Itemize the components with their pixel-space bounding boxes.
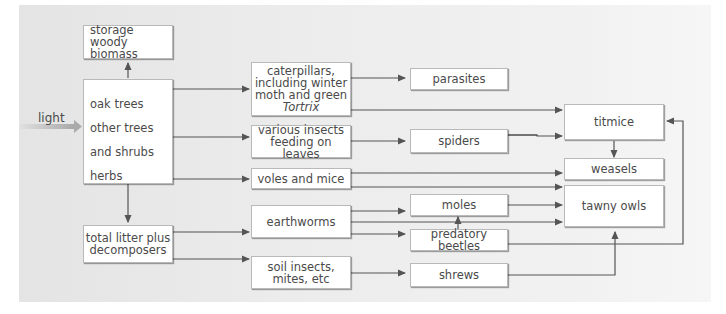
- node-tawny-owls: tawny owls: [564, 185, 664, 227]
- node-caterpillars-line4: Tortrix: [255, 101, 347, 113]
- node-soil-insects-line2: mites, etc: [267, 273, 334, 285]
- node-moles-label: moles: [442, 199, 477, 211]
- node-other-trees: other treesand shrubs: [90, 122, 154, 158]
- node-other-trees-line2: and shrubs: [90, 146, 154, 158]
- node-predatory-beetles: predatory beetles: [410, 229, 508, 251]
- node-moles: moles: [410, 194, 508, 216]
- node-spiders-label: spiders: [438, 135, 480, 147]
- node-storage: storagewoody biomass: [83, 25, 173, 59]
- node-parasites: parasites: [410, 68, 508, 90]
- node-earthworms-label: earthworms: [267, 216, 336, 228]
- node-producers: oak trees other treesand shrubs herbs: [83, 79, 173, 184]
- node-shrews-label: shrews: [439, 269, 479, 281]
- node-beetles-label: predatory beetles: [411, 228, 507, 252]
- node-weasels: weasels: [564, 158, 664, 180]
- node-caterpillars: caterpillars,including wintermoth and gr…: [251, 62, 351, 116]
- node-litter: total litter plusdecomposers: [83, 225, 173, 263]
- node-earthworms: earthworms: [251, 205, 351, 238]
- node-shrews: shrews: [410, 263, 508, 287]
- node-soil-insects: soil insects,mites, etc: [251, 256, 351, 289]
- node-herbs: herbs: [90, 170, 122, 182]
- node-parasites-label: parasites: [433, 73, 486, 85]
- node-insects-line2: feeding on leaves: [252, 136, 350, 160]
- node-soil-insects-line1: soil insects,: [267, 261, 334, 273]
- node-titmice: titmice: [564, 104, 664, 140]
- node-voles: voles and mice: [251, 168, 351, 189]
- node-insects-line1: various insects: [252, 124, 350, 136]
- node-titmice-label: titmice: [594, 116, 634, 128]
- node-weasels-label: weasels: [591, 163, 637, 175]
- node-voles-label: voles and mice: [258, 173, 345, 185]
- node-storage-line2: woody biomass: [90, 36, 172, 60]
- node-other-trees-line1: other trees: [90, 122, 154, 134]
- node-owls-label: tawny owls: [582, 200, 646, 212]
- light-label: light: [38, 111, 65, 125]
- node-insects: various insectsfeeding on leaves: [251, 125, 351, 158]
- node-oak-trees: oak trees: [90, 98, 144, 110]
- node-spiders: spiders: [410, 129, 508, 153]
- node-litter-line2: decomposers: [86, 244, 171, 256]
